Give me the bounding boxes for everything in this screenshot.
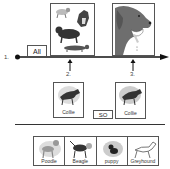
all-label: All [33,48,41,55]
choice-puppy[interactable]: puppy [97,137,128,165]
so-label: SO [99,112,108,118]
collie-card-2[interactable]: Collie [115,82,146,119]
choice-beagle[interactable]: Beagle [65,137,96,165]
collie-card-1-label: Collie [54,109,83,115]
divider [15,124,165,125]
greyhound-icon [131,139,157,159]
collie-card-2-label: Collie [116,110,145,116]
dog-group-image [50,3,95,56]
choice-greyhound-label: Greyhound [128,158,158,164]
all-label-box: All [27,45,47,56]
step-3-arrow-icon [130,59,136,71]
choice-beagle-label: Beagle [65,158,95,164]
dog-group-icon [51,4,94,55]
poodle-icon [37,139,63,159]
step-1-label: 1. [4,54,9,60]
collie-icon [118,85,144,107]
step-3-label: 3. [130,71,135,77]
puppy-icon [100,139,126,159]
choices-row: Poodle Beagle puppy Greyhound [33,136,159,166]
choice-puppy-label: puppy [97,158,127,164]
choice-greyhound[interactable]: Greyhound [128,137,158,165]
collie-card-1[interactable]: Collie [53,82,84,118]
beagle-icon [68,139,94,159]
collie-icon [56,85,82,107]
choice-poodle[interactable]: Poodle [34,137,65,165]
dog-head-icon [113,4,154,55]
so-connector-box: SO [93,110,113,119]
choice-poodle-label: Poodle [34,158,64,164]
step-2-arrow-icon [67,59,73,71]
dog-head-image [112,3,155,56]
step-2-label: 2. [66,71,71,77]
